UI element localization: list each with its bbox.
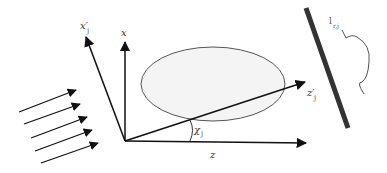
- sample-ellipse: [141, 47, 285, 121]
- z-axis: [125, 141, 306, 143]
- x-prime-axis-subscript: j: [86, 27, 89, 35]
- detector-subscript: r,j: [333, 22, 339, 30]
- incident-beam: [19, 90, 98, 163]
- z-axis-label: z: [209, 149, 216, 160]
- detector-label: l: [329, 16, 332, 26]
- angle-subscript: j: [200, 130, 203, 138]
- x-prime-axis: [86, 37, 125, 141]
- z-prime-axis-subscript: j: [313, 94, 316, 102]
- detector-bar: [306, 8, 348, 128]
- angle-label: χ: [193, 124, 201, 135]
- x-axis-label: x: [121, 27, 127, 38]
- diffraction-geometry-diagram: x z x′ j z′ j χ j l r,j: [0, 0, 387, 173]
- detector-bracket: [342, 30, 369, 94]
- angle-arc: [190, 120, 193, 141]
